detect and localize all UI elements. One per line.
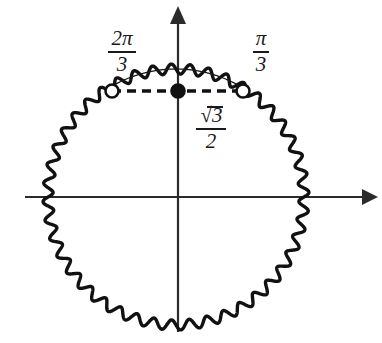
- y-axis-arrow-icon: [170, 6, 186, 24]
- fraction-denominator: 3: [253, 54, 270, 75]
- figure-canvas: 2π 3 π 3 √3 2: [0, 0, 382, 343]
- label-sqrt3-over-2: √3 2: [185, 105, 237, 152]
- point-center-value: [172, 85, 185, 98]
- unit-circle-figure: [0, 0, 382, 343]
- label-pi-over-3: π 3: [240, 28, 282, 75]
- fraction-2pi-over-3: 2π 3: [108, 28, 135, 75]
- fraction-denominator: 2: [196, 131, 225, 152]
- radical-vinculum: [207, 106, 222, 108]
- fraction-sqrt3-over-2: √3 2: [196, 105, 225, 152]
- point-2pi-over-3: [106, 85, 119, 98]
- radical-icon: √3: [199, 105, 222, 126]
- fraction-pi-over-3: π 3: [253, 28, 270, 75]
- label-2pi-over-3: 2π 3: [98, 28, 146, 75]
- fraction-numerator: √3: [196, 105, 225, 126]
- fraction-numerator: 2π: [108, 28, 135, 49]
- fraction-numerator: π: [253, 28, 270, 49]
- x-axis-arrow-icon: [362, 189, 378, 205]
- point-pi-over-3: [237, 85, 250, 98]
- fraction-denominator: 3: [108, 54, 135, 75]
